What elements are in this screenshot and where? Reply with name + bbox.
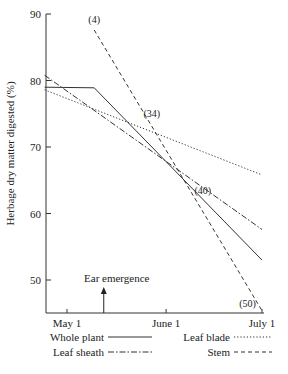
data-annotation: (50) bbox=[239, 298, 256, 310]
series-leaf-sheath bbox=[45, 75, 262, 229]
legend-label: Stem bbox=[207, 346, 230, 358]
data-annotation: (4) bbox=[88, 14, 100, 26]
series-leaf-blade bbox=[45, 90, 262, 175]
y-tick-label: 70 bbox=[30, 141, 42, 153]
ear-emergence-label: Ear emergence bbox=[84, 272, 150, 284]
arrow-head-icon bbox=[101, 287, 107, 294]
y-axis-label: Herbage dry matter digested (%) bbox=[4, 81, 17, 225]
data-annotation: (40) bbox=[195, 185, 212, 197]
legend: Whole plantLeaf bladeLeaf sheathStem bbox=[50, 331, 272, 358]
x-tick-label: June 1 bbox=[152, 317, 180, 329]
legend-label: Whole plant bbox=[50, 331, 104, 343]
legend-label: Leaf blade bbox=[183, 331, 230, 343]
y-tick-label: 50 bbox=[30, 274, 42, 286]
axes bbox=[46, 14, 264, 313]
chart: 5060708090 May 1June 1July 1 Herbage dry… bbox=[0, 0, 288, 374]
annotations: (4)(34)(40)(50) bbox=[88, 14, 256, 309]
data-annotation: (34) bbox=[143, 108, 160, 120]
x-ticks: May 1June 1July 1 bbox=[53, 309, 276, 329]
series-lines bbox=[45, 30, 262, 311]
y-tick-label: 90 bbox=[30, 8, 42, 20]
x-tick-label: July 1 bbox=[249, 317, 276, 329]
y-ticks: 5060708090 bbox=[30, 8, 51, 286]
series-stem bbox=[94, 30, 262, 311]
y-tick-label: 80 bbox=[30, 75, 42, 87]
y-tick-label: 60 bbox=[30, 208, 42, 220]
x-tick-label: May 1 bbox=[53, 317, 81, 329]
ear-emergence-marker: Ear emergence bbox=[84, 272, 150, 313]
legend-label: Leaf sheath bbox=[53, 346, 104, 358]
